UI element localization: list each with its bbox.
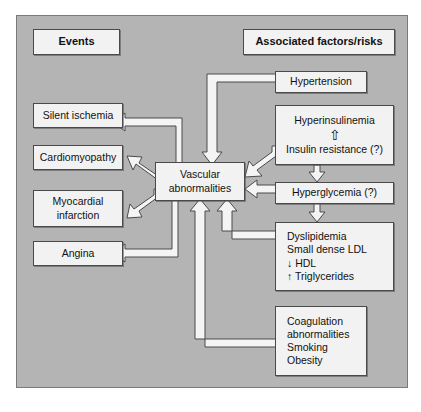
arrow-hyperinsulinemia-to-hyperglycemia — [309, 165, 325, 182]
arrow-hypertension-to-center — [202, 74, 276, 165]
node-vascular-abnormalities-line2: abnormalities — [169, 182, 231, 195]
header-associated-factors-label: Associated factors/risks — [255, 35, 382, 49]
node-other-line3: Smoking — [276, 341, 328, 354]
arrow-dyslipidemia-to-center — [217, 199, 276, 239]
node-dyslipidemia-line3: ↓ HDL — [276, 257, 316, 270]
node-cardiomyopathy-label: Cardiomyopathy — [40, 151, 116, 164]
node-other-line1: Coagulation — [276, 315, 343, 328]
node-dyslipidemia: Dyslipidemia Small dense LDL ↓ HDL ↑ Tri… — [275, 222, 394, 291]
node-hyperinsulinemia: Hyperinsulinemia ⇧ Insulin resistance (?… — [275, 105, 394, 165]
node-hyperinsulinemia-line1: Hyperinsulinemia — [294, 114, 375, 127]
node-hyperglycemia-label: Hyperglycemia (?) — [292, 186, 377, 199]
node-hypertension-label: Hypertension — [290, 75, 352, 88]
arrow-center-to-myocardial-infarction — [127, 189, 158, 218]
node-other-factors: Coagulation abnormalities Smoking Obesit… — [275, 306, 367, 376]
header-events-label: Events — [58, 35, 94, 49]
node-vascular-abnormalities-line1: Vascular — [180, 168, 220, 181]
node-dyslipidemia-line1: Dyslipidemia — [276, 230, 347, 243]
node-silent-ischemia-label: Silent ischemia — [43, 109, 114, 122]
node-myocardial-infarction-line1: Myocardial — [53, 195, 104, 208]
node-silent-ischemia: Silent ischemia — [33, 103, 123, 128]
arrow-hyperglycemia-to-dyslipidemia — [309, 203, 325, 222]
node-other-line2: abnormalities — [276, 328, 349, 341]
node-dyslipidemia-line4: ↑ Triglycerides — [276, 270, 354, 283]
node-hyperglycemia: Hyperglycemia (?) — [275, 182, 394, 204]
up-arrow-icon: ⇧ — [329, 128, 341, 142]
header-associated-factors: Associated factors/risks — [243, 29, 395, 55]
arrow-hyperinsulinemia-to-center — [245, 146, 276, 177]
node-other-line4: Obesity — [276, 354, 323, 367]
node-hypertension: Hypertension — [275, 71, 367, 93]
diagram-figure: .hollow{fill:#f4f4f4;stroke:#4a4a4a;stro… — [0, 0, 421, 412]
arrow-other-to-center — [190, 199, 276, 347]
node-vascular-abnormalities: Vascular abnormalities — [155, 162, 245, 201]
node-angina: Angina — [33, 241, 123, 266]
node-insulin-resistance-label: Insulin resistance (?) — [286, 143, 383, 156]
node-angina-label: Angina — [62, 247, 95, 260]
arrow-hyperglycemia-to-center — [245, 180, 276, 198]
node-cardiomyopathy: Cardiomyopathy — [33, 145, 123, 170]
node-myocardial-infarction: Myocardial infarction — [33, 190, 123, 227]
header-events: Events — [33, 29, 120, 55]
node-myocardial-infarction-line2: infarction — [57, 209, 100, 222]
node-dyslipidemia-line2: Small dense LDL — [276, 243, 367, 256]
